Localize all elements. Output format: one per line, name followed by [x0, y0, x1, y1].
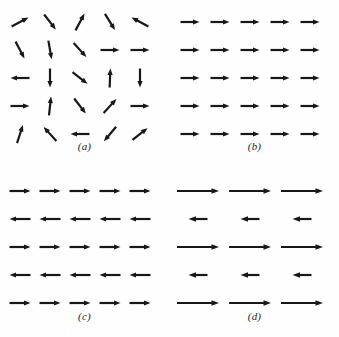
arrow-c-r4c3: [70, 272, 91, 277]
arrow-b-r2c1: [181, 47, 200, 52]
arrow-b-r3c2: [211, 75, 230, 80]
arrow-d-r3c1: [177, 244, 219, 250]
arrow-b-r1c2: [211, 19, 230, 24]
arrow-b-r5c5: [301, 131, 320, 136]
panel-a: (a): [0, 0, 169, 168]
arrow-c-r5c1: [10, 300, 31, 305]
arrow-a-r4c4: [104, 99, 117, 113]
arrow-b-r5c1: [181, 131, 200, 136]
arrow-c-r1c5: [130, 188, 151, 193]
arrow-b-r1c5: [301, 19, 320, 24]
arrow-d-r5c3: [281, 300, 323, 306]
arrow-a-r3c2: [47, 69, 52, 88]
arrow-b-r5c3: [241, 131, 260, 136]
arrow-a-r1c2: [44, 15, 56, 30]
arrow-b-r3c5: [301, 75, 320, 80]
arrow-a-r4c2: [48, 97, 53, 116]
arrow-b-r3c4: [271, 75, 290, 80]
arrow-c-r3c5: [130, 244, 151, 249]
arrow-d-r5c1: [177, 300, 219, 306]
arrow-c-r5c5: [130, 300, 151, 305]
arrow-a-r5c2: [44, 127, 57, 141]
arrow-a-r2c1: [16, 42, 25, 59]
arrow-b-r1c3: [241, 19, 260, 24]
arrow-a-r3c1: [11, 75, 30, 80]
arrow-c-r1c1: [10, 188, 31, 193]
arrow-d-r4c3: [293, 272, 312, 278]
panel-caption-b: (b): [170, 140, 339, 152]
arrow-b-r1c1: [181, 19, 200, 24]
arrow-c-r2c3: [70, 216, 91, 221]
arrow-b-r4c5: [301, 103, 320, 108]
panel-caption-c: (c): [0, 310, 169, 322]
arrow-c-r4c1: [10, 272, 31, 277]
arrow-c-r5c4: [100, 300, 121, 305]
arrow-b-r3c3: [241, 75, 260, 80]
arrow-a-r2c4: [101, 47, 120, 52]
arrow-c-r3c2: [40, 244, 61, 249]
arrow-b-r4c2: [211, 103, 230, 108]
arrow-d-r1c3: [281, 188, 323, 194]
arrow-a-r1c1: [12, 18, 29, 27]
arrow-b-r4c3: [241, 103, 260, 108]
arrow-d-r5c2: [229, 300, 271, 306]
arrow-a-r4c3: [74, 99, 86, 114]
arrow-c-r2c1: [10, 216, 31, 221]
arrow-a-r4c1: [11, 103, 30, 108]
arrow-c-r1c4: [100, 188, 121, 193]
panel-c: (c): [0, 169, 169, 337]
arrow-b-r4c4: [271, 103, 290, 108]
panel-b: (b): [170, 0, 339, 168]
arrow-a-r2c5: [131, 47, 150, 52]
arrow-a-r1c4: [105, 14, 115, 30]
arrow-c-r1c3: [70, 188, 91, 193]
arrow-b-r2c3: [241, 47, 260, 52]
arrow-c-r4c4: [100, 272, 121, 277]
arrow-c-r5c2: [40, 300, 61, 305]
arrow-d-r4c1: [189, 272, 208, 278]
arrow-b-r3c1: [181, 75, 200, 80]
arrow-b-r5c2: [211, 131, 230, 136]
arrow-d-r2c2: [241, 216, 260, 222]
panel-d: (d): [170, 169, 339, 337]
arrow-b-r2c2: [211, 47, 230, 52]
arrow-c-r2c2: [40, 216, 61, 221]
panel-caption-d: (d): [170, 310, 339, 322]
arrow-d-r3c3: [281, 244, 323, 250]
arrow-c-r2c5: [130, 216, 151, 221]
arrow-a-r3c4: [108, 69, 113, 88]
arrow-a-r2c2: [48, 41, 53, 60]
arrow-c-r4c5: [130, 272, 151, 277]
arrow-a-r5c3: [71, 131, 90, 136]
arrow-a-r5c5: [133, 128, 148, 140]
arrow-c-r3c3: [70, 244, 91, 249]
arrow-b-r4c1: [181, 103, 200, 108]
arrow-b-r2c5: [301, 47, 320, 52]
arrow-d-r2c1: [189, 216, 208, 222]
arrow-c-r2c4: [100, 216, 121, 221]
arrow-a-r2c3: [74, 43, 87, 57]
arrow-d-r1c1: [177, 188, 219, 194]
arrow-c-r4c2: [40, 272, 61, 277]
arrow-d-r4c2: [241, 272, 260, 278]
arrow-d-r2c3: [293, 216, 312, 222]
arrow-c-r1c2: [40, 188, 61, 193]
arrow-a-r4c5: [131, 103, 150, 108]
arrow-a-r3c5: [137, 69, 142, 88]
arrow-b-r2c4: [271, 47, 290, 52]
arrow-a-r1c3: [76, 14, 85, 31]
arrow-d-r1c2: [229, 188, 271, 194]
arrow-b-r1c4: [271, 19, 290, 24]
panel-caption-a: (a): [0, 140, 169, 152]
arrow-c-r3c4: [100, 244, 121, 249]
arrow-b-r5c4: [271, 131, 290, 136]
arrow-a-r1c5: [132, 18, 149, 27]
arrow-d-r3c2: [229, 244, 271, 250]
figure-root: (a) (b) (c) (d): [0, 0, 339, 337]
arrow-a-r3c3: [73, 72, 88, 84]
arrow-c-r3c1: [10, 244, 31, 249]
arrow-c-r5c3: [70, 300, 91, 305]
